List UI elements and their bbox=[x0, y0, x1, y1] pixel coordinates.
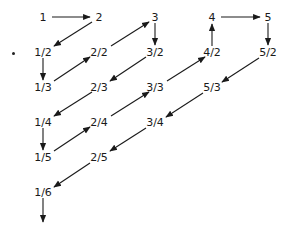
fraction-node-n4: 4 bbox=[209, 12, 216, 23]
fraction-node-n5_3: 5/3 bbox=[203, 82, 221, 93]
arrow-icon bbox=[110, 57, 146, 81]
cantor-enumeration-diagram: 123451/22/23/24/25/21/32/33/35/31/42/43/… bbox=[0, 0, 293, 231]
arrow-icon bbox=[111, 22, 149, 46]
arrow-icon bbox=[166, 93, 203, 117]
fraction-node-n1: 1 bbox=[40, 12, 47, 23]
arrow-icon bbox=[54, 163, 90, 187]
fraction-node-n4_2: 4/2 bbox=[203, 47, 221, 58]
fraction-node-n3: 3 bbox=[152, 12, 159, 23]
arrow-icon bbox=[54, 22, 92, 46]
arrow-icon bbox=[54, 127, 90, 151]
fraction-node-n1_3: 1/3 bbox=[34, 82, 52, 93]
fraction-node-n5: 5 bbox=[265, 12, 272, 23]
fraction-node-n2_2: 2/2 bbox=[90, 47, 108, 58]
fraction-node-n2: 2 bbox=[96, 12, 103, 23]
fraction-node-n5_2: 5/2 bbox=[259, 47, 277, 58]
fraction-node-n3_2: 3/2 bbox=[146, 47, 164, 58]
arrow-icon bbox=[167, 57, 205, 81]
fraction-node-n2_5: 2/5 bbox=[90, 152, 108, 163]
arrow-icon bbox=[111, 92, 149, 116]
arrow-icon bbox=[54, 57, 90, 81]
fraction-node-n3_4: 3/4 bbox=[146, 117, 164, 128]
arrow-icon bbox=[222, 58, 259, 82]
fraction-node-n2_4: 2/4 bbox=[90, 117, 108, 128]
arrow-icon bbox=[110, 128, 146, 151]
arrow-icon bbox=[54, 92, 92, 116]
stray-dot bbox=[12, 52, 15, 55]
fraction-node-n1_5: 1/5 bbox=[34, 152, 52, 163]
fraction-node-n3_3: 3/3 bbox=[146, 82, 164, 93]
fraction-node-n1_4: 1/4 bbox=[34, 117, 52, 128]
fraction-node-n1_2: 1/2 bbox=[34, 47, 52, 58]
fraction-node-n1_6: 1/6 bbox=[34, 187, 52, 198]
fraction-node-n2_3: 2/3 bbox=[90, 82, 108, 93]
